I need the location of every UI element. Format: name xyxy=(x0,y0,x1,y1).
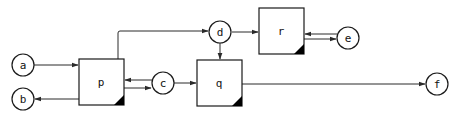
node-a: a xyxy=(12,54,34,76)
node-d-label: d xyxy=(217,26,224,39)
node-f: f xyxy=(426,73,448,95)
node-p: p xyxy=(79,59,124,105)
node-p-label: p xyxy=(98,76,105,89)
node-f-label: f xyxy=(434,78,441,91)
node-b-label: b xyxy=(20,93,27,106)
node-c-label: c xyxy=(160,77,167,90)
node-e: e xyxy=(337,27,359,49)
node-b: b xyxy=(12,88,34,110)
node-a-label: a xyxy=(20,59,27,72)
block-diagram: p q r a b c d e f xyxy=(0,0,461,116)
node-e-label: e xyxy=(345,32,352,45)
node-r-label: r xyxy=(278,25,285,38)
node-r: r xyxy=(259,8,304,54)
node-d: d xyxy=(209,21,231,43)
edge-p-to-d xyxy=(118,31,208,59)
node-q: q xyxy=(197,60,242,106)
node-q-label: q xyxy=(216,77,223,90)
node-c: c xyxy=(152,72,174,94)
